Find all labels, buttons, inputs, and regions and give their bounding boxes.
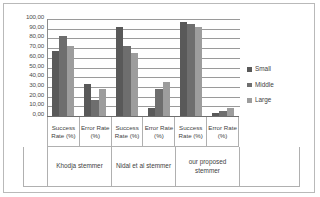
legend-item[interactable]: Middle	[247, 82, 309, 89]
y-axis-tick-labels: 0,0010,0020,0030,0040,0050,0060,0070,008…	[8, 17, 44, 116]
bar-cluster	[47, 19, 79, 116]
legend-label: Small	[255, 66, 271, 72]
bar-middle	[59, 36, 67, 117]
chart-plot-wrapper: 0,0010,0020,0030,0040,0050,0060,0070,008…	[4, 4, 316, 194]
bar-small	[84, 84, 92, 116]
y-axis-tick-label: 20,00	[8, 92, 44, 98]
group-label-spacer	[23, 147, 47, 186]
chart-legend: SmallMiddleLarge	[247, 66, 309, 113]
bar-large	[227, 108, 235, 116]
y-axis-tick-label: 100,00	[8, 14, 44, 20]
y-axis-tick-label: 40,00	[8, 72, 44, 78]
category-label: Success Rate (%)	[111, 117, 143, 146]
bar-middle	[91, 100, 99, 116]
bar-middle	[187, 24, 195, 116]
legend-item[interactable]: Small	[247, 66, 309, 73]
y-axis-tick-label: 80,00	[8, 33, 44, 39]
bar-small	[148, 108, 156, 116]
y-axis-tick-label: 70,00	[8, 43, 44, 49]
category-label: Success Rate (%)	[174, 117, 206, 146]
y-axis-tick-label: 30,00	[8, 82, 44, 88]
bar-cluster	[111, 19, 143, 116]
y-axis-tick-label: 90,00	[8, 24, 44, 30]
group-label: our proposed stemmer	[175, 147, 239, 186]
bar-cluster	[175, 19, 207, 116]
group-label-spacer-end	[239, 147, 300, 186]
bar-small	[212, 113, 220, 116]
bar-large	[163, 82, 171, 116]
bar-large	[99, 89, 107, 116]
bar-large	[67, 46, 75, 116]
legend-label: Large	[255, 97, 271, 103]
y-axis-tick-label: 60,00	[8, 53, 44, 59]
legend-swatch-icon	[247, 83, 252, 88]
y-axis-tick-label: 10,00	[8, 101, 44, 107]
y-axis-tick-label: 0,00	[8, 111, 44, 117]
category-label: Error Rate (%)	[142, 117, 174, 146]
bar-small	[52, 51, 60, 116]
chart-frame: 0,0010,0020,0030,0040,0050,0060,0070,008…	[3, 3, 315, 193]
group-label: Khodja stemmer	[47, 147, 111, 186]
legend-item[interactable]: Large	[247, 97, 309, 104]
legend-swatch-icon	[247, 67, 252, 72]
bar-cluster	[207, 19, 239, 116]
bar-series-layer	[47, 19, 239, 116]
bar-small	[116, 27, 124, 116]
category-label-row: Success Rate (%)Error Rate (%)Success Ra…	[47, 117, 239, 147]
bar-cluster	[143, 19, 175, 116]
bar-large	[131, 53, 139, 116]
group-label: Nidal et al stemmer	[111, 147, 175, 186]
bar-small	[180, 22, 188, 116]
group-label-row: Khodja stemmerNidal et al stemmerour pro…	[23, 147, 300, 187]
category-label: Error Rate (%)	[206, 117, 239, 146]
y-axis-tick-label: 50,00	[8, 63, 44, 69]
bar-middle	[219, 111, 227, 116]
bar-middle	[123, 46, 131, 116]
bar-cluster	[79, 19, 111, 116]
category-label: Success Rate (%)	[47, 117, 79, 146]
legend-label: Middle	[255, 82, 274, 88]
bar-middle	[155, 89, 163, 116]
legend-swatch-icon	[247, 98, 252, 103]
category-label: Error Rate (%)	[79, 117, 111, 146]
bar-large	[195, 27, 203, 116]
